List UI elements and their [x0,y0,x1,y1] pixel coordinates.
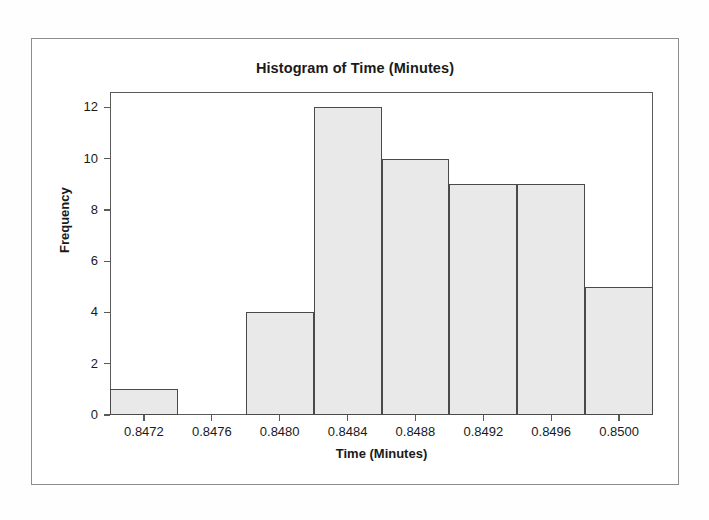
x-axis-tick-label: 0.8480 [245,424,315,439]
histogram-bar [246,312,314,415]
y-axis-tick [104,158,110,159]
x-axis-tick [279,415,280,421]
y-axis-tick-label: 12 [66,99,98,114]
histogram-screenshot: Histogram of Time (Minutes) 024681012 0.… [0,0,709,520]
histogram-bar [314,107,382,415]
x-axis-tick-label: 0.8492 [448,424,518,439]
histogram-bar [585,287,653,415]
x-axis-tick-label: 0.8476 [177,424,247,439]
y-axis-tick-label: 0 [66,407,98,422]
y-axis-tick-label: 4 [66,304,98,319]
y-axis-tick-label: 2 [66,356,98,371]
x-axis-tick-label: 0.8488 [380,424,450,439]
y-axis-title-holder: Frequency [57,253,73,254]
y-axis-tick [104,312,110,313]
x-axis-tick [551,415,552,421]
histogram-bar [517,184,585,415]
x-axis-tick-label: 0.8484 [313,424,383,439]
x-axis-tick-label: 0.8472 [109,424,179,439]
histogram-bars [110,92,653,415]
y-axis-tick-label: 10 [66,151,98,166]
histogram-bar [110,389,178,415]
x-axis-tick-label: 0.8496 [516,424,586,439]
y-axis-tick [104,414,110,415]
x-axis-tick-label: 0.8500 [584,424,654,439]
x-axis-tick [143,415,144,421]
x-axis-tick [415,415,416,421]
chart-title: Histogram of Time (Minutes) [31,60,679,76]
histogram-bar [449,184,517,415]
y-axis-tick [104,107,110,108]
y-axis-tick [104,209,110,210]
x-axis-tick [211,415,212,421]
x-axis-tick [483,415,484,421]
x-axis-title: Time (Minutes) [110,446,653,461]
y-axis-tick [104,363,110,364]
y-axis-tick [104,261,110,262]
histogram-bar [382,159,450,415]
x-axis-tick [618,415,619,421]
x-axis-tick [347,415,348,421]
y-axis-tick-label: 6 [66,253,98,268]
y-axis-title: Frequency [57,187,72,253]
